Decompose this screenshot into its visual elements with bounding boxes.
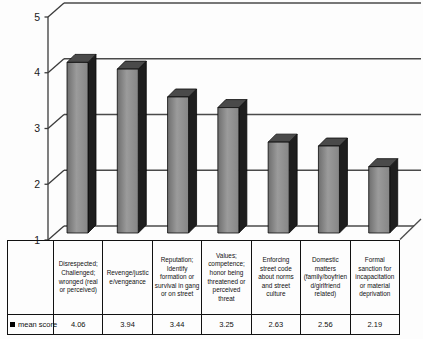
value-cell-5: 2.63 [251, 315, 300, 335]
value-cell-3: 3.44 [152, 315, 201, 335]
category-cell-6: Domestic matters (family/boyfriend/girlf… [301, 241, 350, 315]
category-cell-1: Disrespected; Challenged; wronged (real … [54, 241, 103, 315]
bar-6 [318, 138, 347, 233]
ytick-5: 5 [34, 11, 40, 23]
category-cell-2: Revenge/justice/vengeance [103, 241, 152, 315]
category-cell-5: Enforcing street code about norms and st… [251, 241, 300, 315]
y-axis [45, 17, 49, 240]
value-cell-4: 3.25 [202, 315, 251, 335]
ytick-2: 2 [34, 178, 40, 190]
data-table: Disrespected; Challenged; wronged (real … [7, 240, 400, 335]
bar-chart-figure: 5 4 3 2 1 Disrespected; Challenged; wron… [0, 0, 423, 339]
category-header-row: Disrespected; Challenged; wronged (real … [8, 241, 400, 315]
value-cell-7: 2.19 [350, 315, 399, 335]
ytick-3: 3 [34, 122, 40, 134]
legend-cell: mean score [8, 315, 54, 335]
bar-3 [168, 89, 197, 233]
legend-label: mean score [18, 320, 57, 329]
mean-score-row: mean score 4.06 3.94 3.44 3.25 2.63 2.56… [8, 315, 400, 335]
value-cell-6: 2.56 [301, 315, 350, 335]
y-axis-labels: 5 4 3 2 1 [34, 11, 40, 246]
value-cell-1: 4.06 [54, 315, 103, 335]
bar-2 [117, 61, 146, 233]
bar-1 [67, 54, 96, 233]
bar-4 [218, 100, 247, 233]
bar-5 [268, 134, 297, 233]
category-cell-3: Reputation; Identify formation or surviv… [152, 241, 201, 315]
bars-layer [67, 54, 398, 233]
category-cell-7: Formal sanction for incapacitation or ma… [350, 241, 399, 315]
ytick-4: 4 [34, 66, 40, 78]
bar-7 [369, 159, 398, 233]
value-cell-2: 3.94 [103, 315, 152, 335]
corner-cell [8, 241, 54, 315]
chart-plot-area: 5 4 3 2 1 [0, 0, 423, 245]
legend-marker-square [10, 322, 15, 327]
depth-connectors [48, 3, 64, 240]
category-cell-4: Values; competence; honor being threaten… [202, 241, 251, 315]
